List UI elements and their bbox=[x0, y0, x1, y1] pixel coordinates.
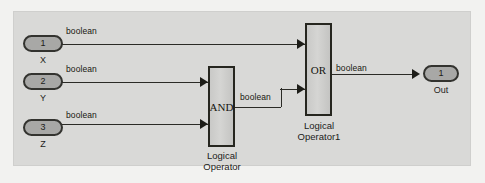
input-port-1-label: X bbox=[23, 55, 63, 65]
input-port-2[interactable]: 2 bbox=[23, 73, 63, 90]
or-block-caption: Logical Operator1 bbox=[285, 120, 353, 142]
input-port-2-number: 2 bbox=[40, 77, 45, 86]
signal-label-x: boolean bbox=[66, 26, 97, 36]
arrow-or-input-1 bbox=[297, 39, 305, 49]
wire-and-out-v[interactable] bbox=[281, 88, 282, 107]
signal-label-and-output: boolean bbox=[240, 92, 271, 102]
and-caption-line-1: Logical bbox=[189, 150, 255, 161]
output-port-1[interactable]: 1 bbox=[423, 65, 459, 82]
signal-label-z: boolean bbox=[66, 110, 97, 120]
input-port-1-number: 1 bbox=[40, 39, 45, 48]
and-caption-line-2: Operator bbox=[189, 161, 255, 172]
signal-label-or-output: boolean bbox=[336, 63, 367, 73]
arrow-out-port bbox=[412, 69, 420, 79]
arrow-and-input-2 bbox=[200, 119, 208, 129]
wire-and-out-h1[interactable] bbox=[235, 107, 281, 108]
signal-label-y: boolean bbox=[66, 64, 97, 74]
and-operator-label: AND bbox=[210, 101, 234, 113]
wire-or-to-out[interactable] bbox=[332, 74, 417, 75]
input-port-3[interactable]: 3 bbox=[23, 119, 63, 136]
arrow-or-input-2 bbox=[297, 84, 305, 94]
input-port-3-label: Z bbox=[23, 139, 63, 149]
input-port-1[interactable]: 1 bbox=[23, 35, 63, 52]
logical-operator-and-block[interactable]: AND bbox=[208, 66, 235, 147]
output-port-1-label: Out bbox=[423, 85, 459, 95]
diagram-canvas[interactable]: 1 X boolean 2 Y boolean 3 Z boolean AND … bbox=[13, 11, 471, 166]
wire-y-to-and[interactable] bbox=[62, 82, 209, 83]
logical-operator-or-block[interactable]: OR bbox=[305, 23, 332, 116]
wire-x-to-or[interactable] bbox=[62, 44, 306, 45]
diagram-stage: 1 X boolean 2 Y boolean 3 Z boolean AND … bbox=[0, 0, 485, 183]
arrow-and-input-1 bbox=[200, 77, 208, 87]
output-port-1-number: 1 bbox=[438, 69, 443, 78]
and-block-caption: Logical Operator bbox=[189, 150, 255, 172]
or-operator-label: OR bbox=[311, 64, 326, 76]
or-caption-line-1: Logical bbox=[285, 120, 353, 131]
input-port-3-number: 3 bbox=[40, 123, 45, 132]
or-caption-line-2: Operator1 bbox=[285, 131, 353, 142]
wire-z-to-and[interactable] bbox=[62, 124, 209, 125]
input-port-2-label: Y bbox=[23, 93, 63, 103]
